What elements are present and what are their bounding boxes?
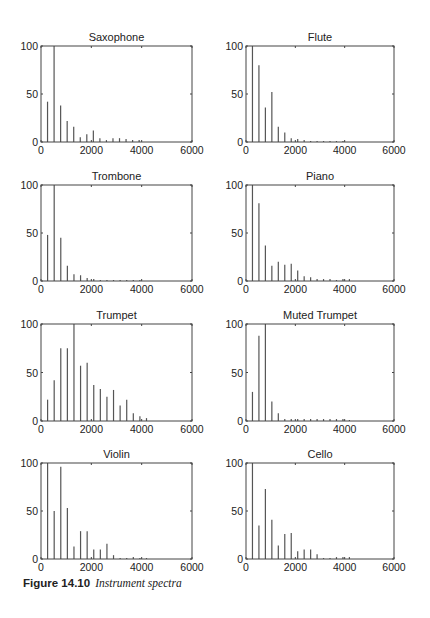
x-tick-label: 2000 xyxy=(80,144,104,156)
y-tick-label: 100 xyxy=(20,318,38,330)
y-tick-label: 100 xyxy=(20,179,38,191)
x-tick-label: 4000 xyxy=(130,423,154,435)
x-tick-label: 0 xyxy=(243,423,249,435)
axes-frame xyxy=(41,463,192,559)
subplot-flute: Flute0200040006000050100 xyxy=(225,31,405,156)
y-tick-label: 50 xyxy=(26,505,38,517)
axes-frame xyxy=(246,46,394,142)
x-tick-label: 2000 xyxy=(80,423,104,435)
subplot-trumpet: Trumpet0200040006000050100 xyxy=(20,309,203,435)
x-tick-label: 4000 xyxy=(333,423,357,435)
y-tick-label: 50 xyxy=(231,227,243,239)
caption-text: Instrument spectra xyxy=(95,577,182,589)
y-tick-label: 50 xyxy=(26,88,38,100)
x-tick-label: 0 xyxy=(243,283,249,295)
stem-series xyxy=(48,463,147,559)
y-tick-label: 0 xyxy=(32,553,38,565)
y-tick-label: 0 xyxy=(237,136,243,148)
x-tick-label: 2000 xyxy=(284,423,308,435)
x-tick-label: 4000 xyxy=(130,283,154,295)
x-tick-label: 2000 xyxy=(80,561,104,573)
subplot-title: Piano xyxy=(306,170,334,182)
x-tick-label: 6000 xyxy=(382,561,406,573)
axes-frame xyxy=(246,324,394,421)
subplot-title: Trombone xyxy=(92,170,142,182)
x-tick-label: 6000 xyxy=(180,423,204,435)
stem-series xyxy=(252,324,349,421)
axes-frame xyxy=(41,324,192,421)
x-tick-label: 4000 xyxy=(333,144,357,156)
spectra-plot-grid: Saxophone0200040006000050100Flute0200040… xyxy=(0,0,430,618)
stem-series xyxy=(48,46,140,142)
axes-frame xyxy=(41,185,192,281)
y-tick-label: 100 xyxy=(225,40,243,52)
x-tick-label: 6000 xyxy=(382,423,406,435)
stem-series xyxy=(252,463,349,559)
y-tick-label: 0 xyxy=(237,275,243,287)
subplot-piano: Piano0200040006000050100 xyxy=(225,170,405,295)
x-tick-label: 4000 xyxy=(130,561,154,573)
x-tick-label: 0 xyxy=(38,423,44,435)
x-tick-label: 4000 xyxy=(130,144,154,156)
x-tick-label: 0 xyxy=(243,144,249,156)
x-tick-label: 0 xyxy=(38,561,44,573)
x-tick-label: 0 xyxy=(38,283,44,295)
y-tick-label: 100 xyxy=(225,179,243,191)
subplot-title: Flute xyxy=(308,31,332,43)
x-tick-label: 2000 xyxy=(284,144,308,156)
x-tick-label: 4000 xyxy=(333,561,357,573)
figure-caption: Figure 14.10Instrument spectra xyxy=(23,577,182,589)
subplot-title: Saxophone xyxy=(89,31,145,43)
y-tick-label: 0 xyxy=(32,415,38,427)
axes-frame xyxy=(246,185,394,281)
instrument-spectra-figure: Saxophone0200040006000050100Flute0200040… xyxy=(0,0,430,618)
y-tick-label: 0 xyxy=(237,415,243,427)
x-tick-label: 6000 xyxy=(382,283,406,295)
stem-series xyxy=(252,46,342,142)
stem-series xyxy=(48,185,140,281)
x-tick-label: 2000 xyxy=(284,283,308,295)
y-tick-label: 100 xyxy=(20,40,38,52)
caption-number: Figure 14.10 xyxy=(23,577,90,589)
subplot-muted-trumpet: Muted Trumpet0200040006000050100 xyxy=(225,309,405,435)
x-tick-label: 4000 xyxy=(333,283,357,295)
subplot-violin: Violin0200040006000050100 xyxy=(20,448,203,573)
stem-series xyxy=(252,185,349,281)
y-tick-label: 50 xyxy=(26,367,38,379)
subplot-cello: Cello0200040006000050100 xyxy=(225,448,405,573)
x-tick-label: 0 xyxy=(243,561,249,573)
subplot-title: Violin xyxy=(103,448,130,460)
y-tick-label: 0 xyxy=(32,275,38,287)
x-tick-label: 2000 xyxy=(284,561,308,573)
y-tick-label: 100 xyxy=(225,318,243,330)
x-tick-label: 6000 xyxy=(180,283,204,295)
x-tick-label: 2000 xyxy=(80,283,104,295)
y-tick-label: 100 xyxy=(225,457,243,469)
subplot-trombone: Trombone0200040006000050100 xyxy=(20,170,203,295)
x-tick-label: 0 xyxy=(38,144,44,156)
x-tick-label: 6000 xyxy=(180,561,204,573)
y-tick-label: 50 xyxy=(231,88,243,100)
axes-frame xyxy=(246,463,394,559)
y-tick-label: 0 xyxy=(32,136,38,148)
x-tick-label: 6000 xyxy=(382,144,406,156)
subplot-title: Trumpet xyxy=(96,309,137,321)
y-tick-label: 100 xyxy=(20,457,38,469)
y-tick-label: 50 xyxy=(231,367,243,379)
subplot-saxophone: Saxophone0200040006000050100 xyxy=(20,31,203,156)
y-tick-label: 0 xyxy=(237,553,243,565)
x-tick-label: 6000 xyxy=(180,144,204,156)
subplot-title: Muted Trumpet xyxy=(283,309,357,321)
stem-series xyxy=(48,324,147,421)
y-tick-label: 50 xyxy=(231,505,243,517)
subplot-title: Cello xyxy=(307,448,332,460)
y-tick-label: 50 xyxy=(26,227,38,239)
axes-frame xyxy=(41,46,192,142)
